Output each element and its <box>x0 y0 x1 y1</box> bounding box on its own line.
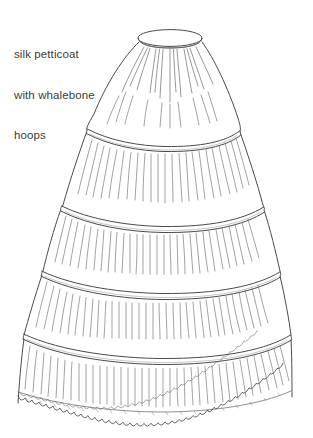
annotation-line-1: silk petticoat <box>14 48 164 62</box>
illustration-canvas: silk petticoat with whalebone hoops <box>0 0 313 438</box>
annotation-line-2: with whalebone <box>14 89 164 103</box>
annotation-caption: silk petticoat with whalebone hoops <box>14 21 164 170</box>
annotation-line-3: hoops <box>14 129 164 143</box>
